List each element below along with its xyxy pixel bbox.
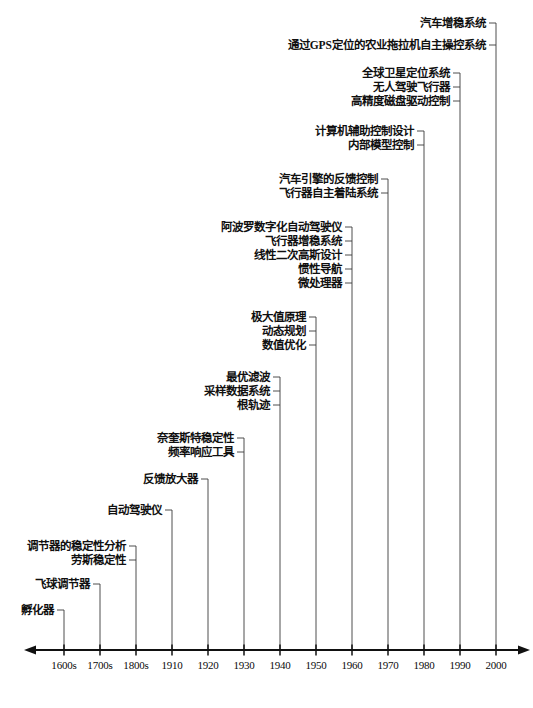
milestone-label: 全球卫星定位系统 bbox=[0, 67, 450, 79]
axis-tick-label-1980: 1980 bbox=[413, 659, 434, 671]
milestone-label: 汽车增稳系统 bbox=[0, 17, 486, 29]
milestone-label: 高精度磁盘驱动控制 bbox=[0, 95, 450, 107]
milestone-label: 采样数据系统 bbox=[0, 385, 270, 397]
axis-tick-label-1910: 1910 bbox=[161, 659, 182, 671]
milestone-label: 频率响应工具 bbox=[0, 446, 234, 458]
axis-tick-label-1940: 1940 bbox=[269, 659, 290, 671]
axis-tick-label-1990: 1990 bbox=[449, 659, 470, 671]
milestone-label: 孵化器 bbox=[0, 604, 54, 616]
axis-tick-label-1950: 1950 bbox=[305, 659, 326, 671]
axis-tick-label-1600s: 1600s bbox=[51, 659, 76, 671]
milestone-label: 飞球调节器 bbox=[0, 578, 90, 590]
milestone-label: 无人驾驶飞行器 bbox=[0, 81, 450, 93]
milestone-label: 最优滤波 bbox=[0, 371, 270, 383]
axis-arrow-right bbox=[518, 645, 530, 654]
milestone-label: 通过GPS定位的农业拖拉机自主操控系统 bbox=[0, 39, 486, 51]
milestone-label: 根轨迹 bbox=[0, 399, 270, 411]
milestone-label: 调节器的稳定性分析 bbox=[0, 540, 126, 552]
milestone-label: 自动驾驶仪 bbox=[0, 504, 162, 516]
axis-tick-label-1700s: 1700s bbox=[87, 659, 112, 671]
milestone-label: 内部模型控制 bbox=[0, 139, 414, 151]
milestone-label: 动态规划 bbox=[0, 325, 306, 337]
axis-tick-label-2000: 2000 bbox=[485, 659, 506, 671]
milestone-label: 劳斯稳定性 bbox=[0, 554, 126, 566]
milestone-label: 线性二次高斯设计 bbox=[0, 249, 342, 261]
milestone-label: 计算机辅助控制设计 bbox=[0, 125, 414, 137]
milestone-label: 数值优化 bbox=[0, 339, 306, 351]
milestone-label: 惯性导航 bbox=[0, 263, 342, 275]
axis-tick-label-1970: 1970 bbox=[377, 659, 398, 671]
milestone-label: 飞行器增稳系统 bbox=[0, 235, 342, 247]
timeline-chart: 孵化器飞球调节器调节器的稳定性分析劳斯稳定性自动驾驶仪反馈放大器奈奎斯特稳定性频… bbox=[0, 0, 533, 708]
milestone-label: 反馈放大器 bbox=[0, 473, 198, 485]
milestone-label: 汽车引擎的反馈控制 bbox=[0, 173, 378, 185]
milestone-label: 阿波罗数字化自动驾驶仪 bbox=[0, 221, 342, 233]
axis-tick-label-1800s: 1800s bbox=[123, 659, 148, 671]
milestone-label: 微处理器 bbox=[0, 277, 342, 289]
time-axis bbox=[24, 645, 530, 656]
axis-tick-label-1930: 1930 bbox=[233, 659, 254, 671]
axis-arrow-left bbox=[24, 645, 36, 654]
milestone-label: 极大值原理 bbox=[0, 311, 306, 323]
axis-tick-label-1920: 1920 bbox=[197, 659, 218, 671]
milestone-label: 飞行器自主着陆系统 bbox=[0, 187, 378, 199]
milestone-label: 奈奎斯特稳定性 bbox=[0, 432, 234, 444]
axis-tick-label-1960: 1960 bbox=[341, 659, 362, 671]
